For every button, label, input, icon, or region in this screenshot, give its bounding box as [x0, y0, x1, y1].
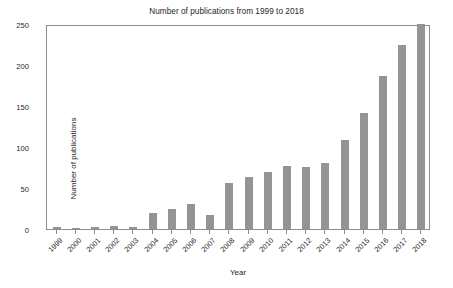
bar-slot	[201, 26, 220, 229]
y-tick-label-0: 0	[25, 226, 29, 235]
x-tick-mark	[190, 230, 191, 234]
x-tick-mark	[75, 230, 76, 234]
bar-slot	[47, 26, 66, 229]
bar-slot	[124, 26, 143, 229]
y-tick-label-150: 150	[16, 103, 29, 112]
bar-slot	[66, 26, 85, 229]
bar-slot	[143, 26, 162, 229]
figure: Number of publications from 1999 to 2018…	[0, 0, 453, 288]
x-tick-mark	[132, 230, 133, 234]
y-axis-ticks: 050100150200250	[0, 0, 46, 288]
bar-2012	[302, 167, 310, 229]
x-tick-mark	[324, 230, 325, 234]
x-tick-mark	[420, 230, 421, 234]
bar-1999	[53, 227, 61, 229]
x-tick-mark	[363, 230, 364, 234]
bar-2001	[91, 227, 99, 229]
x-tick-mark	[382, 230, 383, 234]
x-tick-mark	[267, 230, 268, 234]
x-tick-mark	[401, 230, 402, 234]
chart-title: Number of publications from 1999 to 2018	[0, 7, 453, 16]
bar-slot	[105, 26, 124, 229]
bar-2002	[110, 226, 118, 229]
y-tick-label-250: 250	[16, 21, 29, 30]
bars-layer	[47, 26, 429, 229]
x-tick-mark	[286, 230, 287, 234]
bar-slot	[220, 26, 239, 229]
x-tick-mark	[344, 230, 345, 234]
bar-2011	[283, 166, 291, 229]
bar-2005	[168, 209, 176, 229]
x-tick-mark	[228, 230, 229, 234]
bar-slot	[354, 26, 373, 229]
x-tick-mark	[152, 230, 153, 234]
bar-2016	[379, 76, 387, 229]
x-tick-mark	[94, 230, 95, 234]
bar-slot	[316, 26, 335, 229]
plot-area: Number of publications	[46, 25, 430, 230]
bar-2013	[321, 163, 329, 229]
bar-slot	[181, 26, 200, 229]
bar-2017	[398, 45, 406, 230]
bar-slot	[162, 26, 181, 229]
bar-2008	[225, 183, 233, 229]
bar-slot	[277, 26, 296, 229]
x-tick-mark	[56, 230, 57, 234]
bar-slot	[258, 26, 277, 229]
bar-2000	[72, 228, 80, 229]
x-tick-mark	[305, 230, 306, 234]
y-tick-label-200: 200	[16, 62, 29, 71]
bar-2014	[341, 140, 349, 229]
y-tick-label-50: 50	[21, 185, 29, 194]
bar-2010	[264, 172, 272, 229]
bar-2007	[206, 215, 214, 229]
x-tick-mark	[248, 230, 249, 234]
x-tick-mark	[171, 230, 172, 234]
bar-2003	[129, 227, 137, 229]
bar-slot	[297, 26, 316, 229]
bar-slot	[85, 26, 104, 229]
x-tick-mark	[209, 230, 210, 234]
bar-slot	[412, 26, 431, 229]
bar-2004	[149, 213, 157, 229]
bar-slot	[393, 26, 412, 229]
bar-2015	[360, 113, 368, 229]
bar-slot	[335, 26, 354, 229]
bar-2018	[417, 24, 425, 229]
bar-2006	[187, 204, 195, 229]
x-tick-mark	[113, 230, 114, 234]
bar-slot	[239, 26, 258, 229]
x-axis-ticks: 1999200020012002200320042005200620072008…	[46, 230, 430, 288]
bar-2009	[245, 177, 253, 229]
x-axis-label: Year	[46, 268, 430, 277]
bar-slot	[373, 26, 392, 229]
y-tick-label-100: 100	[16, 144, 29, 153]
